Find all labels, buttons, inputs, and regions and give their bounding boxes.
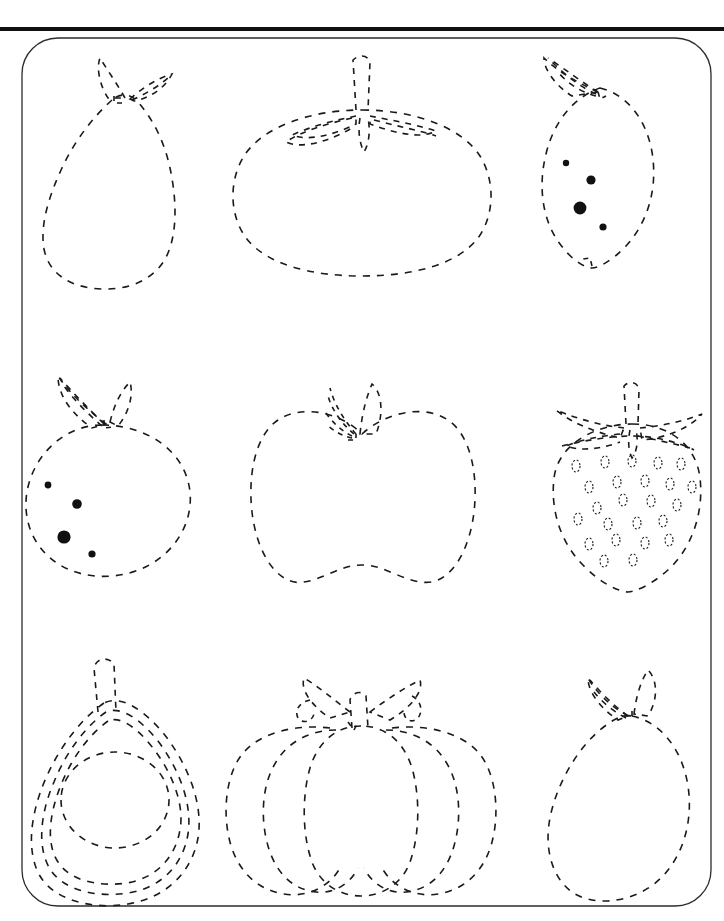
fruit-tomato — [233, 56, 491, 276]
worksheet-canvas — [0, 0, 724, 921]
pear-inner-circle — [61, 752, 169, 848]
lemon-seed-dot — [599, 223, 606, 230]
fruit-orange — [26, 376, 190, 576]
fruit-lemon — [542, 58, 654, 268]
pumpkin-vine-left-curl — [297, 700, 314, 721]
pear-layer-outer — [31, 701, 199, 906]
fruit-mango — [548, 670, 689, 901]
mango-body-outline — [548, 716, 689, 901]
orange-seed-dot — [45, 482, 52, 489]
strawberry-seed — [585, 481, 593, 493]
lemon-leaf-vein-1 — [548, 58, 598, 92]
strawberry-seed — [666, 478, 674, 490]
strawberry-seed — [641, 537, 649, 549]
fruit-pear — [43, 58, 175, 289]
pear-leaf-left — [98, 58, 125, 98]
strawberry-seed — [604, 518, 612, 530]
pumpkin-vine-right-curl — [404, 696, 421, 721]
apple-stem — [360, 384, 381, 434]
strawberry-seed — [600, 555, 608, 567]
strawberry-seed — [612, 534, 620, 546]
tomato-leaf-left-outer — [286, 118, 352, 145]
pumpkin-calyx-notch — [348, 722, 358, 730]
strawberry-seed — [673, 499, 681, 511]
fruit-pumpkin — [226, 678, 496, 896]
apple-body-outline — [251, 412, 475, 583]
strawberry-seed — [574, 513, 582, 525]
strawberry-seed — [613, 476, 621, 488]
strawberry-body-outline — [553, 424, 701, 592]
top-rule-bar — [0, 27, 724, 31]
lemon-leaf-vein-2 — [552, 62, 596, 94]
lemon-leaf-inner — [558, 72, 596, 96]
lemon-seed-dot — [574, 202, 587, 215]
pumpkin-vine-right — [370, 680, 421, 720]
lemon-leaf-outer — [544, 58, 598, 96]
fruit-apple — [251, 384, 475, 582]
strawberry-seed — [629, 554, 637, 566]
tomato-leaf-right — [370, 116, 436, 135]
pumpkin-lobe-center — [304, 726, 418, 896]
page-frame-border — [22, 38, 711, 906]
strawberry-seed — [641, 475, 649, 487]
pumpkin-vine-left — [303, 678, 350, 718]
lemon-seed-dot — [586, 175, 595, 184]
strawberry-seed — [572, 460, 580, 472]
mango-leaf-right — [634, 670, 656, 716]
orange-seed-dot — [88, 550, 95, 557]
strawberry-seed — [619, 494, 627, 506]
pumpkin-lobe-mid-right — [364, 730, 459, 892]
orange-leaf-vein-1 — [60, 378, 104, 424]
strawberry-calyx-right — [640, 414, 702, 440]
lemon-base-notch — [583, 258, 592, 266]
pumpkin-stem — [350, 693, 368, 728]
strawberry-seed — [665, 534, 673, 546]
pear-body-outline — [43, 95, 175, 289]
pear-leaf-vein — [132, 75, 171, 100]
apple-leaf-spike-4 — [326, 424, 352, 438]
strawberry-seed — [677, 458, 685, 470]
orange-body-outline — [26, 425, 190, 576]
orange-seed-dot — [72, 499, 82, 509]
fruit-pear-layered — [31, 659, 199, 906]
strawberry-seed — [601, 456, 609, 468]
orange-seed-dot — [57, 530, 70, 543]
worksheet-page — [0, 0, 724, 921]
tomato-leaf-center — [359, 118, 369, 152]
orange-leaf-small — [110, 382, 131, 426]
pumpkin-lobe-mid-left — [263, 730, 358, 892]
fruit-strawberry — [553, 383, 702, 592]
lemon-body-outline — [542, 88, 654, 268]
lemon-tip-notch — [598, 92, 606, 99]
lemon-seed-dot — [563, 160, 569, 166]
pear-leaf-right — [130, 74, 172, 101]
strawberry-stem — [624, 383, 639, 424]
strawberry-seed — [633, 517, 641, 529]
strawberry-seed — [585, 538, 593, 550]
strawberry-seed — [659, 515, 667, 527]
pear-layered-stem — [94, 659, 116, 712]
strawberry-seed — [593, 502, 601, 514]
strawberry-seed — [688, 481, 696, 493]
strawberry-seed — [647, 495, 655, 507]
strawberry-calyx-right-2 — [638, 436, 690, 448]
strawberry-calyx-center — [629, 430, 638, 458]
strawberry-seed — [654, 457, 662, 469]
orange-leaf-big — [58, 376, 106, 428]
tomato-stem — [353, 56, 370, 110]
tomato-body-outline — [233, 110, 491, 276]
